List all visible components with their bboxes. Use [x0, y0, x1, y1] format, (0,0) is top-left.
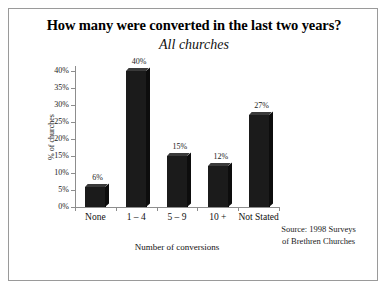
bar-top-face: [249, 112, 272, 115]
bar-front-face: [208, 166, 229, 207]
bar: 40%: [126, 71, 146, 207]
bar-value-label: 12%: [213, 152, 228, 161]
y-axis-tick-label: 0%: [58, 203, 69, 211]
y-axis-tick-label: 10%: [54, 169, 69, 177]
y-axis-tick-label: 15%: [54, 152, 69, 160]
y-axis-tick: [71, 173, 75, 174]
bar-side-face: [187, 152, 191, 207]
y-axis-tick-label: 5%: [58, 186, 69, 194]
x-axis-tick: [157, 207, 158, 211]
y-axis-tick-label: 25%: [54, 118, 69, 126]
y-axis-tick-label: 35%: [54, 84, 69, 92]
plot-area: % of churches 0%5%10%15%20%25%30%35%40% …: [75, 66, 279, 208]
y-axis-tick: [71, 122, 75, 123]
x-axis-category-label: Not Stated: [238, 212, 279, 223]
y-axis-tick-label: 30%: [54, 101, 69, 109]
bar-value-label: 40%: [132, 57, 147, 66]
chart-frame: How many were converted in the last two …: [8, 8, 378, 281]
bar-front-face: [249, 115, 270, 207]
bar-front-face: [167, 156, 188, 207]
bar-value-label: 6%: [92, 173, 103, 182]
bar-side-face: [146, 67, 150, 207]
source-note-line-2: of Brethren Churches: [261, 235, 376, 247]
x-axis-tick: [197, 207, 198, 211]
y-axis-tick: [71, 156, 75, 157]
y-axis-tick: [71, 105, 75, 106]
x-axis-title: Number of conversions: [75, 242, 279, 252]
y-axis-tick: [71, 88, 75, 89]
x-axis-tick: [279, 207, 280, 211]
bar-side-face: [105, 183, 109, 207]
x-axis-line: [75, 207, 279, 208]
source-note: Source: 1998 Surveys of Brethren Churche…: [261, 223, 376, 247]
bar-value-label: 15%: [173, 142, 188, 151]
x-axis-category-label: None: [75, 212, 116, 223]
bar-front-face: [85, 187, 106, 207]
bar-side-face: [269, 112, 273, 207]
bar: 6%: [85, 187, 105, 207]
x-axis-category-label: 10 +: [197, 212, 238, 223]
bar: 27%: [249, 115, 269, 207]
chart-subtitle: All churches: [9, 37, 379, 53]
bar: 12%: [208, 166, 228, 207]
source-note-line-1: Source: 1998 Surveys: [261, 223, 376, 235]
x-axis-tick: [75, 207, 76, 211]
chart-title: How many were converted in the last two …: [9, 17, 379, 34]
y-axis-line: [75, 66, 76, 208]
bar: 15%: [167, 156, 187, 207]
x-axis-tick: [238, 207, 239, 211]
bar-side-face: [228, 163, 232, 207]
bar-value-label: 27%: [254, 101, 269, 110]
y-axis-tick: [71, 139, 75, 140]
x-axis-category-label: 5 – 9: [157, 212, 198, 223]
x-axis-category-label: 1 – 4: [116, 212, 157, 223]
y-axis-tick-label: 40%: [54, 67, 69, 75]
y-axis-tick-label: 20%: [54, 135, 69, 143]
x-axis-tick: [116, 207, 117, 211]
bar-front-face: [126, 71, 147, 207]
y-axis-tick: [71, 71, 75, 72]
y-axis-tick: [71, 190, 75, 191]
